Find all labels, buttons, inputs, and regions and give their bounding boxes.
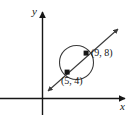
- figure-graphics: [0, 0, 132, 122]
- point-label-5-4: (5, 4): [61, 76, 83, 86]
- x-axis-label: x: [120, 101, 125, 112]
- coordinate-plane-figure: y x (9, 8) (5, 4): [0, 0, 132, 122]
- point-marker-5-4: [65, 70, 70, 75]
- point-marker-9-8: [84, 51, 89, 56]
- y-axis-label: y: [32, 6, 37, 17]
- point-label-9-8: (9, 8): [91, 48, 113, 58]
- diagonal-line: [48, 29, 118, 91]
